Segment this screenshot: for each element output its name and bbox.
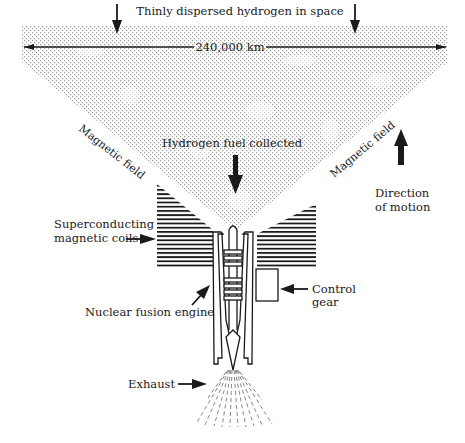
- label-hydrogen-space: Thinly dispersed hydrogen in space: [136, 4, 344, 18]
- label-control-line1: Control: [312, 282, 356, 296]
- label-width: 240,000 km: [195, 40, 264, 54]
- exhaust-plume: [196, 370, 272, 427]
- engine-arrow: [192, 285, 210, 305]
- label-direction-line2: of motion: [375, 200, 431, 214]
- magnetic-coils-right: [257, 204, 316, 267]
- label-fuel-collected: Hydrogen fuel collected: [162, 136, 303, 150]
- label-engine: Nuclear fusion engine: [85, 305, 214, 319]
- label-exhaust: Exhaust: [128, 377, 175, 391]
- fusion-engine: [213, 226, 253, 370]
- control-gear-box: [256, 269, 278, 301]
- exhaust-arrow: [178, 379, 207, 389]
- label-control-line2: gear: [312, 295, 339, 309]
- ramjet-diagram: Thinly dispersed hydrogen in space 240,0…: [0, 0, 465, 443]
- label-direction-line1: Direction: [375, 186, 430, 200]
- direction-arrow: [394, 129, 408, 165]
- label-coils-line2: magnetic coils: [54, 231, 138, 245]
- label-coils-line1: Superconducting: [54, 217, 155, 231]
- control-gear-arrow: [280, 284, 308, 294]
